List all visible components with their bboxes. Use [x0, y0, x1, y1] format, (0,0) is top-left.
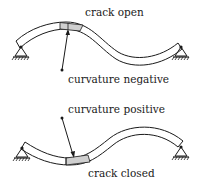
top-beam-lower-edge [20, 29, 182, 65]
label-crack-open: crack open [85, 6, 144, 18]
bottom-right-pin-support-icon [172, 145, 189, 160]
bottom-beam-lower-edge [21, 134, 178, 165]
top-beam-upper-edge [16, 22, 178, 58]
bottom-crack-zone [66, 155, 90, 165]
bottom-arrow-line [62, 118, 73, 155]
top-arrow-tail-dot [61, 69, 64, 72]
bottom-arrow-tail-dot [61, 117, 64, 120]
top-beam-group: crack open curvature negative [12, 6, 189, 85]
beam-curvature-diagram: crack open curvature negative curvature … [0, 0, 199, 185]
bottom-beam-upper-edge [25, 127, 183, 158]
label-curvature-negative: curvature negative [68, 73, 169, 85]
bottom-beam-group: curvature positive crack closed [13, 103, 189, 179]
bottom-left-pin-support-icon [13, 146, 30, 161]
top-left-pin-support-icon [12, 45, 29, 60]
top-beam-left-cap [16, 41, 20, 48]
top-arrow-line [62, 31, 68, 70]
label-curvature-positive: curvature positive [68, 103, 165, 115]
label-crack-closed: crack closed [88, 167, 155, 179]
top-right-pin-support-icon [172, 45, 189, 60]
